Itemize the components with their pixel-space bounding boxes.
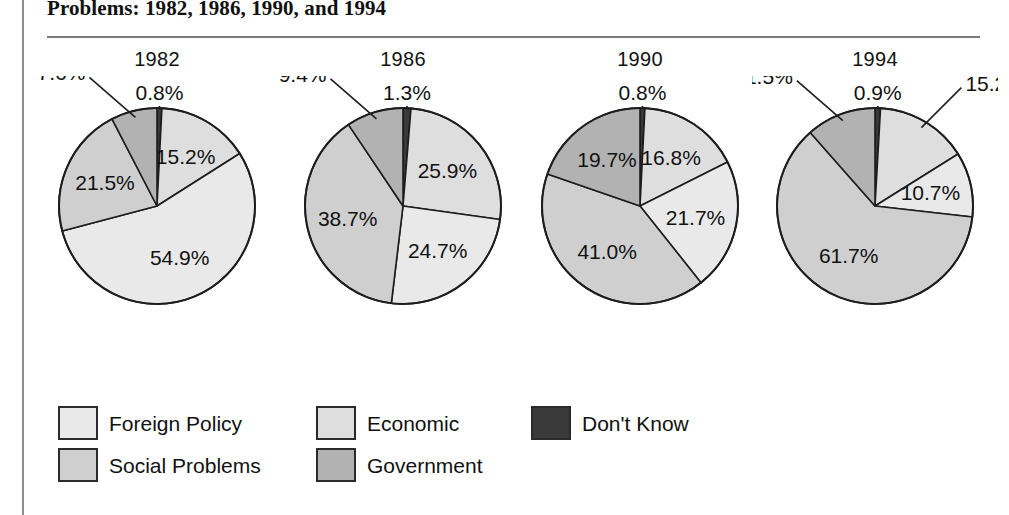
slice-value-label: 61.7% (819, 244, 879, 267)
pie-year-label: 1986 (280, 48, 526, 71)
slice-value-label: 21.5% (75, 171, 135, 194)
figure-title-block: Problems: 1982, 1986, 1990, and 1994 (47, 0, 982, 34)
legend-item-government[interactable]: Government (316, 446, 483, 484)
slice-value-label: 15.2% (156, 145, 216, 168)
pie-year-label: 1994 (752, 48, 998, 71)
legend-item-label: Foreign Policy (109, 413, 242, 434)
legend-item-label: Don't Know (582, 413, 689, 434)
legend-color-swatch (58, 448, 98, 482)
pie-graphic: 1.3%25.9%24.7%38.7%9.4% (280, 76, 526, 388)
pie-chart-1986: 19861.3%25.9%24.7%38.7%9.4% (280, 48, 526, 388)
slice-value-label: 24.7% (408, 239, 468, 262)
legend-item-label: Government (367, 455, 483, 476)
slice-value-label: 15.2% (965, 76, 998, 95)
slice-value-label: 16.8% (641, 146, 701, 169)
pie-graphic: 0.8%16.8%21.7%41.0%19.7% (517, 76, 763, 388)
legend-item-social-problems[interactable]: Social Problems (58, 446, 261, 484)
legend-color-swatch (316, 448, 356, 482)
leader-line (797, 81, 843, 121)
pie-year-label: 1982 (34, 48, 280, 71)
pie-year-label: 1990 (517, 48, 763, 71)
legend-row: Foreign PolicyEconomicDon't Know (58, 404, 758, 446)
figure-panel: Problems: 1982, 1986, 1990, and 1994 198… (0, 0, 1009, 515)
slice-value-label: 38.7% (318, 207, 378, 230)
legend-color-swatch (316, 406, 356, 440)
legend-item-label: Social Problems (109, 455, 261, 476)
leader-line (331, 79, 377, 119)
slice-value-label: 21.7% (666, 206, 726, 229)
legend-row: Social ProblemsGovernment (58, 446, 758, 488)
legend-color-swatch (58, 406, 98, 440)
slice-value-label: 19.7% (577, 148, 637, 171)
pie-graphic: 0.9%15.2%10.7%61.7%11.5% (752, 76, 998, 388)
slice-value-label: 0.8% (619, 81, 667, 104)
page-title: Problems: 1982, 1986, 1990, and 1994 (47, 0, 982, 22)
legend-item-economic[interactable]: Economic (316, 404, 459, 442)
slice-value-label: 41.0% (577, 240, 637, 263)
pie-chart-1994: 19940.9%15.2%10.7%61.7%11.5% (752, 48, 998, 388)
slice-value-label: 0.8% (136, 81, 184, 104)
legend-item-label: Economic (367, 413, 459, 434)
legend-item-foreign-policy[interactable]: Foreign Policy (58, 404, 242, 442)
pie-chart-row: 19820.8%15.2%54.9%21.5%7.6%19861.3%25.9%… (0, 48, 1009, 388)
title-divider (47, 36, 980, 38)
chart-legend: Foreign PolicyEconomicDon't Know Social … (58, 404, 758, 488)
legend-color-swatch (531, 406, 571, 440)
pie-graphic: 0.8%15.2%54.9%21.5%7.6% (34, 76, 280, 388)
slice-value-label: 9.4% (280, 76, 327, 86)
leader-line (921, 88, 961, 128)
pie-chart-1990: 19900.8%16.8%21.7%41.0%19.7% (517, 48, 763, 388)
slice-value-label: 25.9% (418, 159, 478, 182)
pie-chart-1982: 19820.8%15.2%54.9%21.5%7.6% (34, 48, 280, 388)
slice-value-label: 10.7% (901, 181, 961, 204)
legend-item-don-t-know[interactable]: Don't Know (531, 404, 689, 442)
slice-value-label: 1.3% (383, 81, 431, 104)
slice-value-label: 11.5% (752, 76, 793, 88)
slice-value-label: 0.9% (854, 81, 902, 104)
slice-value-label: 54.9% (150, 246, 210, 269)
slice-value-label: 7.6% (38, 76, 86, 84)
